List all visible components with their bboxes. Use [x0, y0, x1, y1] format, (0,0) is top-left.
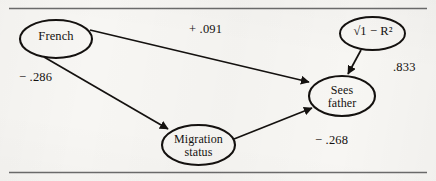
path-label-french-to-migration-status: − .286: [19, 70, 52, 85]
arrow-french-to-migration-status: [44, 57, 168, 129]
path-label-french-to-sees-father: + .091: [189, 22, 222, 37]
node-label-sees-father: Seesfather: [310, 84, 374, 110]
path-label-residual-to-sees-father: .833: [393, 60, 416, 75]
node-label-residual: √1 − R²: [342, 25, 404, 39]
node-label-migration-status: Migrationstatus: [160, 133, 237, 159]
arrow-residual-to-sees-father: [348, 50, 361, 74]
arrow-french-to-sees-father: [90, 30, 309, 82]
node-label-migration-status-line1: Migration: [174, 132, 223, 146]
path-label-migration-status-to-sees-father: − .268: [315, 133, 348, 148]
node-label-migration-status-line2: status: [185, 145, 213, 159]
node-label-sees-father-line2: father: [328, 96, 357, 110]
path-diagram-figure: French Migrationstatus Seesfather √1 − R…: [0, 0, 436, 181]
node-label-french: French: [20, 30, 92, 44]
node-label-sees-father-line1: Sees: [331, 83, 353, 97]
arrow-migration-status-to-sees-father: [234, 108, 312, 139]
